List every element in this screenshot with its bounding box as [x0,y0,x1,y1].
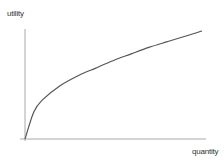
y-axis-label: utility [7,9,24,18]
x-axis-label: quantity [192,147,218,156]
chart-canvas [0,0,224,168]
utility-curve [25,31,202,139]
utility-chart: utility quantity [0,0,224,168]
